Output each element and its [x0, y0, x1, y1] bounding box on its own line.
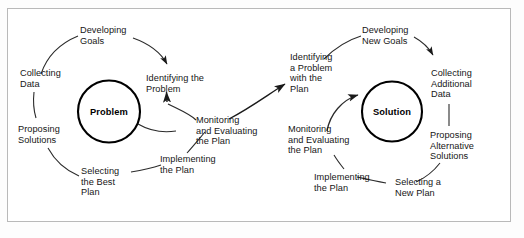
label-implementing-the-plan-2: Implementing the Plan: [314, 172, 370, 193]
arc-monitoring-inner: [168, 104, 196, 120]
label-collecting-additional-data: Collecting Additional Data: [431, 68, 472, 100]
arc-newgoals-to-collecting: [414, 37, 433, 55]
arc-developing-to-identifying: [133, 38, 167, 64]
label-identifying-the-problem: Identifying the Problem: [146, 73, 204, 94]
label-monitoring-and-evaluating-the-plan: Monitoring and Evaluating the Plan: [196, 115, 258, 147]
figure-root: Developing Goals Collecting Data Proposi…: [0, 0, 524, 238]
hub-label-problem: Problem: [79, 107, 139, 117]
line-collecting-to-proposing: [33, 92, 36, 118]
bridge-arrow-problem-to-solution: [229, 84, 285, 119]
label-implementing-the-plan: Implementing the Plan: [160, 154, 216, 175]
label-monitoring-and-evaluating-the-plan-2: Monitoring and Evaluating the Plan: [288, 124, 350, 156]
label-selecting-the-best-plan: Selecting the Best Plan: [81, 166, 119, 198]
hub-label-solution: Solution: [362, 107, 422, 117]
diagram-canvas: [0, 0, 524, 238]
label-proposing-alternative-solutions: Proposing Alternative Solutions: [430, 130, 474, 162]
arc-hub-to-monitoring: [138, 124, 176, 132]
label-developing-goals: Developing Goals: [80, 25, 126, 46]
line-selecting-to-implementing: [131, 165, 161, 172]
label-identifying-a-problem-with-the-plan: Identifying a Problem with the Plan: [290, 52, 332, 94]
label-developing-new-goals: Developing New Goals: [362, 25, 408, 46]
label-proposing-solutions: Proposing Solutions: [18, 124, 60, 145]
label-selecting-a-new-plan: Selecting a New Plan: [395, 177, 441, 198]
arc-proposing-to-selecting: [48, 148, 79, 176]
label-collecting-data: Collecting Data: [20, 68, 61, 89]
line-monitoring-to-implementing-2: [334, 155, 344, 169]
